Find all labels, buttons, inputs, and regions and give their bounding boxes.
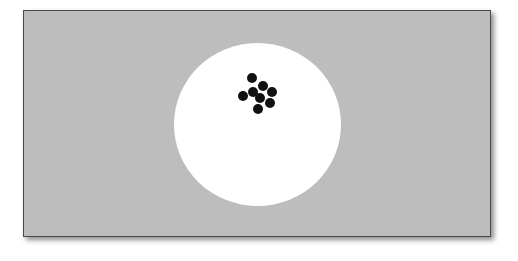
black-dot: [253, 104, 263, 114]
black-dot: [255, 93, 265, 103]
white-disc: [174, 43, 341, 206]
black-dot: [265, 98, 275, 108]
black-dot: [238, 91, 248, 101]
black-dot: [247, 73, 257, 83]
black-dot: [267, 87, 277, 97]
